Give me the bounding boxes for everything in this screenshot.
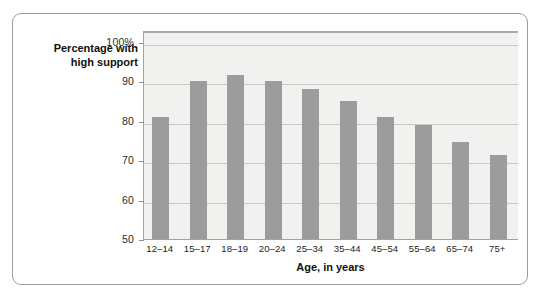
y-axis-title: Percentage with high support	[18, 41, 138, 69]
y-axis-title-line1: Percentage with	[18, 41, 138, 55]
bar	[415, 125, 432, 239]
gridline-100	[144, 45, 518, 46]
chart-figure: Percentage with high support 50607080901…	[0, 0, 541, 297]
bar	[227, 75, 244, 239]
bar	[490, 155, 507, 239]
bar	[190, 81, 207, 239]
bar	[452, 142, 469, 239]
y-axis-title-line2: high support	[18, 55, 138, 69]
bar	[340, 101, 357, 239]
bar	[377, 117, 394, 239]
x-tick-label: 75+	[475, 243, 519, 254]
bar	[265, 81, 282, 239]
plot-area	[143, 31, 518, 240]
x-axis-title: Age, in years	[143, 261, 518, 273]
bar	[302, 89, 319, 239]
bar	[152, 117, 169, 239]
